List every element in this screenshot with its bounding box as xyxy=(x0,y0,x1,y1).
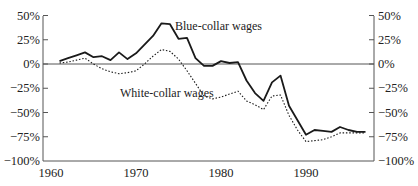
y-tick-label: −25% xyxy=(10,81,40,95)
x-axis: 1960197019801990 xyxy=(39,166,319,180)
y-tick-label: −100% xyxy=(4,154,40,168)
x-tick-label: 1990 xyxy=(294,166,319,180)
right-y-axis: 50%25%0%−25%−50%−75%−100% xyxy=(369,9,414,169)
y-tick-label: 25% xyxy=(17,33,40,47)
y-tick-label: 25% xyxy=(378,33,401,47)
x-tick-label: 1970 xyxy=(124,166,149,180)
y-tick-label: −75% xyxy=(10,130,40,144)
blue-collar-line xyxy=(60,23,366,135)
y-tick-label: 50% xyxy=(378,9,401,23)
y-tick-label: 0% xyxy=(23,57,40,71)
white-collar-label: White-collar wages xyxy=(120,86,214,100)
blue-collar-label: Blue-collar wages xyxy=(175,19,262,33)
y-tick-label: −75% xyxy=(378,130,408,144)
x-tick-label: 1960 xyxy=(39,166,64,180)
left-y-axis: 50%25%0%−25%−50%−75%−100% xyxy=(4,9,48,169)
series-lines xyxy=(60,23,366,141)
x-tick-label: 1980 xyxy=(209,166,234,180)
y-tick-label: −25% xyxy=(378,81,408,95)
y-tick-label: −50% xyxy=(378,106,408,120)
y-tick-label: −100% xyxy=(378,154,414,168)
y-tick-label: −50% xyxy=(10,106,40,120)
y-tick-label: 50% xyxy=(17,9,40,23)
y-tick-label: 0% xyxy=(378,57,395,71)
wage-chart: 50%25%0%−25%−50%−75%−100% 50%25%0%−25%−5… xyxy=(0,0,418,186)
